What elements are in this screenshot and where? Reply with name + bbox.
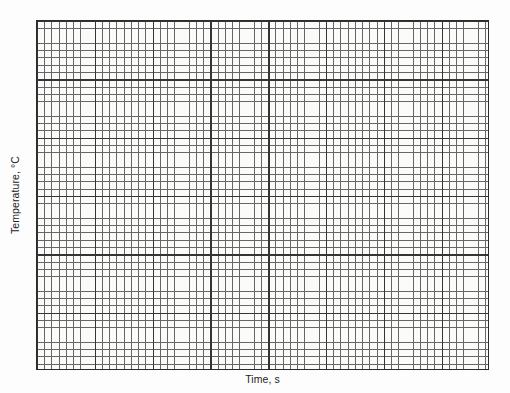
y-axis-label-text: Temperature, °C bbox=[9, 156, 21, 234]
figure-canvas: Temperature, °C Time, s bbox=[0, 0, 510, 393]
plot-area bbox=[36, 20, 489, 370]
minor-grid bbox=[37, 21, 488, 369]
y-axis-label: Temperature, °C bbox=[0, 0, 30, 390]
x-axis-label: Time, s bbox=[36, 373, 489, 385]
x-axis-label-text: Time, s bbox=[245, 373, 280, 385]
major-grid bbox=[37, 21, 488, 369]
paper-tint-overlay bbox=[37, 21, 488, 369]
